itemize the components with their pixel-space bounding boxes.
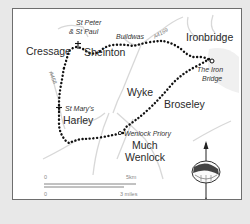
town-sheinton: Sheinton — [84, 47, 125, 58]
compass-icon — [192, 141, 220, 200]
poi-st-paul-label: & St Paul — [69, 28, 98, 35]
scale-mi-end: 3 miles — [120, 192, 137, 198]
scale-mi-start: 0 — [44, 192, 47, 198]
scale-km-end: 5km — [126, 175, 136, 181]
town-broseley: Broseley — [164, 99, 205, 110]
town-wenlock: Wenlock — [125, 152, 165, 163]
town-cressage: Cressage — [26, 46, 71, 57]
poi-iron-bridge-label-1: The Iron — [197, 66, 223, 73]
poi-iron-bridge-label-2: Bridge — [202, 75, 222, 82]
iron-bridge-marker — [210, 59, 214, 63]
town-much: Much — [132, 140, 158, 151]
wenlock-priory-marker — [118, 131, 121, 134]
poi-st-peter-label: St Peter — [76, 19, 101, 26]
poi-wenlock-priory-label: Wenlock Priory — [124, 130, 171, 137]
map-frame: St Peter & St Paul Buildwas A4169 Cressa… — [12, 8, 242, 200]
town-ironbridge: Ironbridge — [186, 32, 233, 43]
poi-st-marys-label: St Mary's — [65, 105, 94, 112]
town-harley: Harley — [63, 115, 93, 126]
scale-km-start: 0 — [44, 175, 47, 181]
town-wyke: Wyke — [127, 87, 153, 98]
church-icon — [56, 105, 62, 112]
road-buildwas-label: Buildwas — [116, 33, 144, 40]
